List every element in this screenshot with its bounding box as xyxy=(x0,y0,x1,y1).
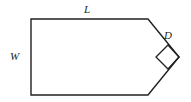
dimension-label-diagonal: D xyxy=(164,30,172,41)
right-angle-marker-icon xyxy=(156,45,179,69)
dimension-label-width: W xyxy=(10,51,19,62)
shape-diagram-svg xyxy=(0,0,191,102)
figure-container: L W D xyxy=(0,0,191,102)
dimension-label-length: L xyxy=(84,4,90,15)
